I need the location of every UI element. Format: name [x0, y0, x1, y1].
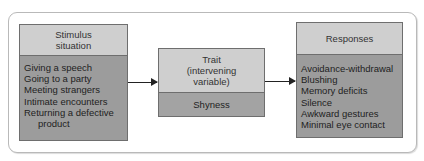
header-line: situation	[55, 40, 91, 51]
list-item: product	[24, 118, 127, 129]
arrow-right-icon	[128, 82, 157, 83]
header-line: Responses	[326, 33, 374, 44]
list-item: Memory deficits	[301, 85, 402, 96]
responses-header: Responses	[297, 23, 402, 55]
list-item: Awkward gestures	[301, 108, 402, 119]
list-item: Meeting strangers	[24, 84, 127, 95]
stimulus-situation-header: Stimulus situation	[20, 25, 127, 56]
trait-header: Trait (intervening variable)	[159, 49, 264, 93]
list-item: Returning a defective	[24, 107, 127, 118]
list-item: Minimal eye contact	[301, 119, 402, 130]
header-line: (intervening	[187, 65, 237, 76]
list-item: Avoidance-withdrawal	[301, 63, 402, 74]
list-item: Blushing	[301, 74, 402, 85]
responses-box: Responses Avoidance-withdrawal Blushing …	[296, 22, 403, 138]
header-line: Trait	[187, 54, 237, 65]
stimulus-situation-list: Giving a speech Going to a party Meeting…	[20, 56, 127, 140]
trait-label: Shyness	[193, 99, 229, 110]
trait-box: Trait (intervening variable) Shyness	[158, 48, 265, 117]
list-item: Intimate encounters	[24, 96, 127, 107]
list-item: Going to a party	[24, 73, 127, 84]
list-item: Giving a speech	[24, 62, 127, 73]
responses-list: Avoidance-withdrawal Blushing Memory def…	[297, 55, 402, 137]
list-item: Silence	[301, 97, 402, 108]
arrow-right-icon	[265, 81, 295, 82]
stimulus-situation-box: Stimulus situation Giving a speech Going…	[19, 24, 128, 141]
header-line: Stimulus	[55, 29, 91, 40]
trait-value: Shyness	[159, 93, 264, 116]
header-line: variable)	[187, 76, 237, 87]
